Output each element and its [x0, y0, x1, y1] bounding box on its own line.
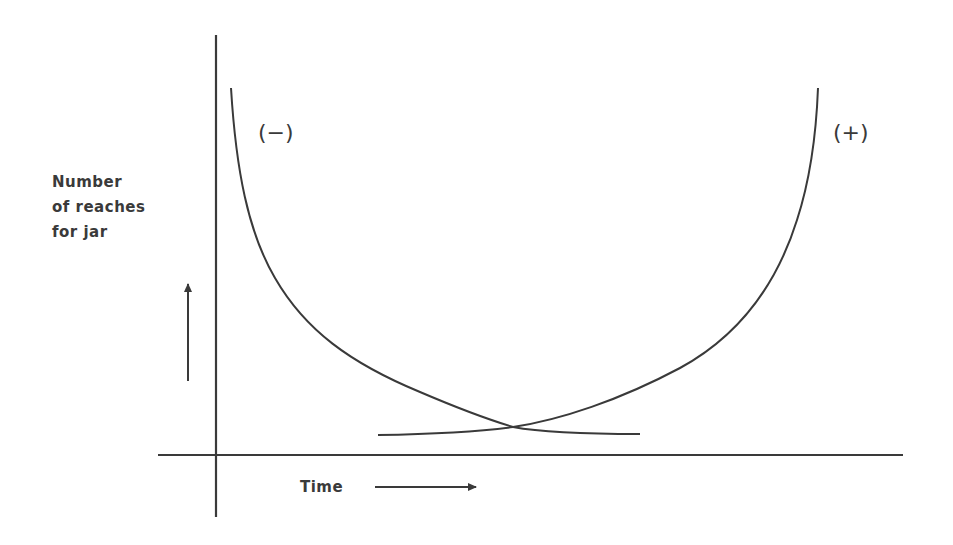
y-axis-label-line-2: of reaches	[52, 195, 145, 220]
y-axis-label-line-1: Number	[52, 170, 145, 195]
curve-label-positive: (+)	[833, 120, 869, 145]
y-axis-label: Number of reaches for jar	[52, 170, 145, 245]
curve-positive	[378, 88, 818, 435]
curve-label-negative: (−)	[258, 120, 294, 145]
x-axis-label: Time	[300, 478, 343, 496]
y-axis-label-line-3: for jar	[52, 220, 145, 245]
diagram-canvas	[0, 0, 953, 545]
